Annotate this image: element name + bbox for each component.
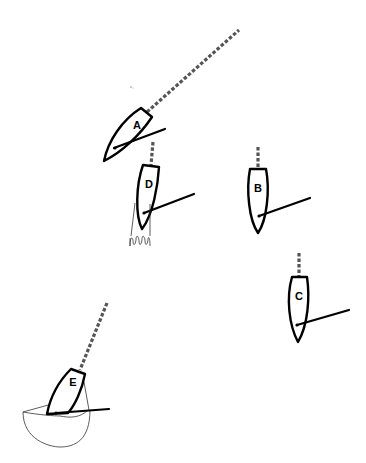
boat-e-wake [80, 303, 107, 370]
boat-a-hull [104, 108, 152, 161]
boat-a-wake [147, 30, 239, 112]
boat-b-hull [248, 169, 267, 233]
boat-b-pivot [257, 214, 260, 217]
diagram-canvas [0, 0, 366, 463]
boat-d [130, 142, 194, 246]
boat-e-label: E [69, 377, 76, 388]
stray-mark [130, 86, 133, 88]
boat-d-label: D [145, 179, 153, 190]
boat-e-pivot [54, 411, 57, 414]
boat-c-pivot [295, 323, 298, 326]
boat-e-hull [47, 369, 85, 414]
boat-b-label: B [254, 183, 262, 194]
boat-a [104, 30, 239, 161]
boat-c-hull [289, 277, 308, 342]
boat-a-pivot [113, 146, 116, 149]
boat-e [23, 303, 109, 447]
boat-c-label: C [295, 291, 303, 302]
boat-d-wake [151, 142, 153, 165]
boat-d-pivot [142, 211, 145, 214]
boat-d-hull [137, 165, 159, 229]
boat-a-label: A [133, 120, 141, 131]
